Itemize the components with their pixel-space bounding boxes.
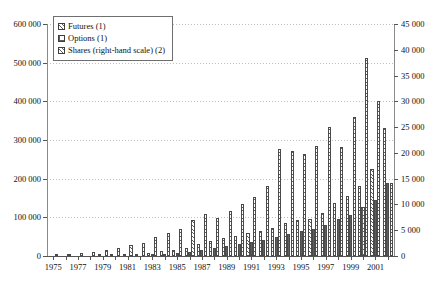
bar-shares-1989 bbox=[229, 211, 232, 256]
y-tick-label-right: 30 000 bbox=[401, 97, 424, 106]
bar-shares-1999 bbox=[353, 117, 356, 256]
y-tick-left bbox=[43, 179, 47, 180]
x-tick bbox=[152, 256, 153, 260]
y-tick-label-right: 10 000 bbox=[401, 200, 424, 209]
chart-legend: Futures (1) Options (1) Shares (right-ha… bbox=[53, 16, 173, 61]
gridline bbox=[47, 140, 394, 141]
legend-item-shares: Shares (right-hand scale) (2) bbox=[58, 45, 165, 56]
x-tick bbox=[276, 256, 277, 260]
legend-label-futures: Futures (1) bbox=[68, 22, 106, 31]
x-tick-label: 1999 bbox=[342, 263, 359, 272]
y-tick-left bbox=[43, 63, 47, 64]
x-tick bbox=[165, 256, 166, 260]
x-tick-label: 2001 bbox=[367, 263, 384, 272]
bar-shares-1995 bbox=[303, 154, 306, 256]
x-tick-label: 1979 bbox=[94, 263, 111, 272]
y-tick-label-left: 0 bbox=[37, 252, 41, 261]
bar-shares-1991 bbox=[253, 197, 256, 256]
y-tick-right bbox=[394, 256, 398, 257]
x-tick-label: 1987 bbox=[193, 263, 210, 272]
x-tick bbox=[351, 256, 352, 260]
x-tick bbox=[301, 256, 302, 260]
legend-swatch-shares-icon bbox=[58, 47, 65, 54]
x-tick-label: 1981 bbox=[119, 263, 136, 272]
gridline bbox=[47, 63, 394, 64]
bar-shares-1982 bbox=[142, 243, 145, 256]
y-tick-label-right: 45 000 bbox=[401, 20, 424, 29]
y-tick-label-right: 15 000 bbox=[401, 175, 424, 184]
y-tick-label-left: 200 000 bbox=[13, 175, 41, 184]
x-tick-label: 1989 bbox=[218, 263, 235, 272]
bar-shares-2001 bbox=[377, 101, 380, 256]
y-tick-right bbox=[394, 153, 398, 154]
x-tick bbox=[90, 256, 91, 260]
y-tick-label-left: 500 000 bbox=[13, 59, 41, 68]
chart-container: 0100 000200 000300 000400 000500 000600 … bbox=[0, 0, 444, 289]
y-tick-right bbox=[394, 179, 398, 180]
y-tick-right bbox=[394, 50, 398, 51]
y-tick-right bbox=[394, 24, 398, 25]
x-tick-label: 1975 bbox=[45, 263, 62, 272]
x-tick bbox=[264, 256, 265, 260]
y-tick-label-left: 300 000 bbox=[13, 136, 41, 145]
bar-shares-1983 bbox=[154, 237, 157, 256]
x-tick bbox=[214, 256, 215, 260]
legend-item-futures: Futures (1) bbox=[58, 21, 165, 32]
y-tick-left bbox=[43, 140, 47, 141]
x-tick-label: 1977 bbox=[69, 263, 86, 272]
x-tick-label: 1997 bbox=[317, 263, 334, 272]
y-tick-label-right: 40 000 bbox=[401, 46, 424, 55]
x-tick-label: 1995 bbox=[293, 263, 310, 272]
x-axis bbox=[47, 256, 394, 257]
bar-shares-1997 bbox=[328, 127, 331, 256]
bar-shares-1998 bbox=[340, 147, 343, 256]
y-tick-label-left: 400 000 bbox=[13, 97, 41, 106]
x-tick bbox=[363, 256, 364, 260]
bar-shares-1996 bbox=[315, 146, 318, 256]
y-tick-label-left: 600 000 bbox=[13, 20, 41, 29]
x-tick bbox=[115, 256, 116, 260]
y-tick-left bbox=[43, 217, 47, 218]
x-tick bbox=[239, 256, 240, 260]
y-tick-label-right: 5 000 bbox=[401, 226, 420, 235]
legend-item-options: Options (1) bbox=[58, 33, 165, 44]
bar-shares-2000 bbox=[365, 58, 368, 256]
bar-shares-2002 bbox=[390, 183, 393, 256]
x-tick bbox=[388, 256, 389, 260]
y-tick-label-right: 35 000 bbox=[401, 72, 424, 81]
y-tick-left bbox=[43, 101, 47, 102]
bar-shares-1985 bbox=[179, 229, 182, 256]
x-tick-label: 1991 bbox=[243, 263, 260, 272]
bar-shares-1980 bbox=[117, 248, 120, 256]
gridline bbox=[47, 101, 394, 102]
legend-label-shares: Shares (right-hand scale) (2) bbox=[68, 46, 165, 55]
bar-shares-1993 bbox=[278, 149, 281, 256]
y-axis-right bbox=[394, 24, 395, 256]
y-tick-left bbox=[43, 256, 47, 257]
bar-shares-1987 bbox=[204, 214, 207, 256]
x-tick bbox=[103, 256, 104, 260]
y-tick-left bbox=[43, 24, 47, 25]
x-tick bbox=[78, 256, 79, 260]
y-tick-label-left: 100 000 bbox=[13, 213, 41, 222]
x-tick bbox=[66, 256, 67, 260]
x-tick bbox=[338, 256, 339, 260]
x-tick bbox=[375, 256, 376, 260]
y-tick-right bbox=[394, 127, 398, 128]
bar-shares-1986 bbox=[191, 220, 194, 256]
bar-shares-1981 bbox=[129, 245, 132, 256]
y-tick-right bbox=[394, 204, 398, 205]
x-tick bbox=[177, 256, 178, 260]
bar-shares-1990 bbox=[241, 204, 244, 256]
legend-label-options: Options (1) bbox=[68, 34, 107, 43]
y-axis-left bbox=[47, 24, 48, 256]
x-tick bbox=[313, 256, 314, 260]
y-tick-label-right: 20 000 bbox=[401, 149, 424, 158]
x-tick-label: 1983 bbox=[144, 263, 161, 272]
y-tick-right bbox=[394, 230, 398, 231]
bar-shares-1992 bbox=[266, 186, 269, 256]
x-tick bbox=[289, 256, 290, 260]
legend-swatch-diagonal-hatch-icon bbox=[58, 23, 65, 30]
legend-swatch-grid-hatch-icon bbox=[58, 35, 65, 42]
x-tick bbox=[227, 256, 228, 260]
